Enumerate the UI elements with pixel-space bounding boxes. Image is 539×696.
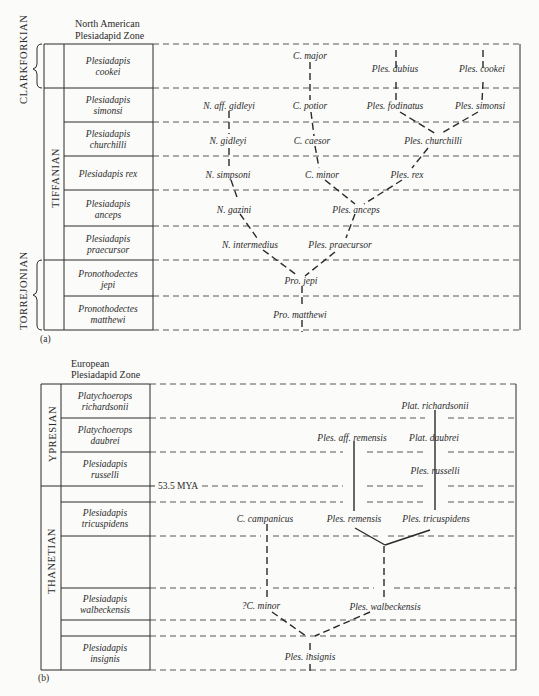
taxon-c-campanicus: C. campanicus: [237, 514, 294, 524]
taxon-n-gidleyi: N. gidleyi: [209, 136, 247, 146]
zone-insignis-l2: insignis: [90, 654, 120, 664]
taxon-ples-fodinatus: Ples. fodinatus: [366, 101, 424, 111]
zone-tricuspidens-l2: tricuspidens: [82, 519, 129, 529]
taxon-n-gazini: N. gazini: [216, 205, 252, 215]
taxon-ples-anceps: Ples. anceps: [331, 205, 380, 215]
era-clarkforkian: CLARKFORKIAN: [18, 15, 29, 104]
taxon-plat-richardsonii: Plat. richardsonii: [400, 401, 469, 411]
zone-matthewi-l1: Pronothodectes: [77, 304, 138, 314]
panel-a-header-line2: Plesiadapid Zone: [75, 30, 145, 41]
taxon-n-simpsoni: N. simpsoni: [205, 170, 251, 180]
zone-table-a: [44, 44, 520, 330]
panel-b-header-line2: Plesiadapid Zone: [71, 369, 141, 380]
taxon-ples-churchilli: Ples. churchilli: [403, 136, 462, 146]
plesiadapid-phylogeny-figure: North American Plesiadapid Zone CLARKFOR…: [0, 0, 539, 696]
zone-churchilli-l2: churchilli: [90, 140, 127, 150]
taxon-plat-daubrei: Plat. daubrei: [408, 433, 459, 443]
zone-cookei-l2: cookei: [96, 67, 121, 77]
zone-anceps-l1: Plesiadapis: [85, 199, 131, 209]
zone-praecursor-l1: Plesiadapis: [85, 234, 131, 244]
taxon-ples-praecursor: Ples. praecursor: [307, 240, 372, 250]
boundary-label: 53.5 MYA: [158, 481, 198, 491]
era-tiffanian: TIFFANIAN: [50, 148, 61, 208]
zone-russelli-l1: Plesiadapis: [82, 459, 128, 469]
taxon-ples-rex: Ples. rex: [390, 170, 425, 180]
clarkforkian-brace: [33, 44, 42, 88]
taxon-c-potior: C. potior: [293, 101, 328, 111]
lineages-b: [267, 410, 435, 672]
zone-anceps-l2: anceps: [95, 210, 122, 220]
zone-praecursor-l2: praecursor: [86, 245, 130, 255]
lineages-a: [229, 50, 483, 332]
taxa-a: C. major Ples. dubius Ples. cookei N. af…: [202, 51, 505, 320]
panel-a-label: (a): [40, 334, 51, 345]
torrejonian-brace: [33, 260, 42, 330]
taxon-ples-simonsi: Ples. simonsi: [454, 101, 506, 111]
panel-a: North American Plesiadapid Zone CLARKFOR…: [18, 15, 520, 345]
zone-walbeckensis-l2: walbeckensis: [80, 605, 130, 615]
taxon-ples-cookei: Ples. cookei: [458, 64, 505, 74]
era-ypresian: YPRESIAN: [47, 406, 58, 462]
zone-jepi-l2: jepi: [99, 280, 116, 290]
zone-cookei-l1: Plesiadapis: [85, 56, 131, 66]
panel-b: European Plesiadapid Zone YPRESIAN THANE…: [38, 358, 516, 684]
taxon-n-intermedius: N. intermedius: [221, 240, 278, 250]
zone-daubrei-l1: Platychoerops: [77, 425, 133, 435]
panel-b-label: (b): [38, 673, 49, 684]
taxon-c-minor: C. minor: [305, 170, 339, 180]
taxon-ples-dubius: Ples. dubius: [371, 64, 419, 74]
zone-names-b: Platychoerops richardsonii Platychoerops…: [77, 391, 133, 664]
taxa-b: Plat. richardsonii Ples. aff. remensis P…: [237, 401, 470, 662]
taxon-ples-insignis: Ples. insignis: [284, 652, 336, 662]
zone-jepi-l1: Pronothodectes: [77, 269, 138, 279]
zone-churchilli-l1: Plesiadapis: [85, 129, 131, 139]
zone-insignis-l1: Plesiadapis: [82, 643, 128, 653]
taxon-pro-jepi: Pro. jepi: [284, 276, 318, 286]
taxon-ples-remensis: Ples. remensis: [326, 514, 382, 524]
taxon-ples-walbeckensis: Ples. walbeckensis: [348, 602, 421, 612]
zone-richardsonii-l1: Platychoerops: [77, 391, 133, 401]
taxon-ples-russelli: Ples. russelli: [409, 466, 459, 476]
era-torrejonian: TORREJONIAN: [18, 251, 29, 330]
zone-simonsi-l2: simonsi: [93, 106, 122, 116]
taxon-ples-aff-remensis: Ples. aff. remensis: [316, 433, 387, 443]
zone-walbeckensis-l1: Plesiadapis: [82, 594, 128, 604]
zone-tricuspidens-l1: Plesiadapis: [82, 508, 128, 518]
zone-richardsonii-l2: richardsonii: [82, 402, 129, 412]
taxon-n-aff-gidleyi: N. aff. gidleyi: [202, 101, 255, 111]
zone-rex: Plesiadapis rex: [78, 169, 138, 179]
taxon-pro-matthewi: Pro. matthewi: [272, 310, 327, 320]
era-thanetian: THANETIAN: [46, 528, 57, 594]
panel-a-header-line1: North American: [75, 18, 140, 29]
zone-simonsi-l1: Plesiadapis: [85, 95, 131, 105]
taxon-c-major: C. major: [293, 51, 327, 61]
taxon-ples-tricuspidens: Ples. tricuspidens: [401, 514, 470, 524]
zone-daubrei-l2: daubrei: [90, 436, 120, 446]
zone-matthewi-l2: matthewi: [91, 315, 126, 325]
taxon-c-caesor: C. caesor: [294, 136, 331, 146]
zone-russelli-l2: russelli: [91, 470, 119, 480]
taxon-c-minor-q: ?C. minor: [242, 601, 281, 611]
panel-b-header-line1: European: [71, 358, 109, 369]
